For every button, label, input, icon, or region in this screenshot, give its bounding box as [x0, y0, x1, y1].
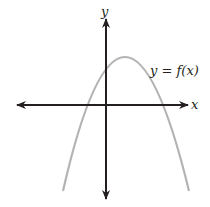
graph: y x y = f(x)	[0, 0, 210, 207]
curve-label: y = f(x)	[149, 63, 199, 78]
x-axis-label: x	[191, 97, 199, 112]
y-axis-label: y	[100, 4, 109, 19]
